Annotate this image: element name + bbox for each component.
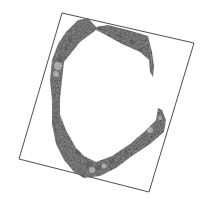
specimen-figure (0, 0, 207, 201)
c-shaped-specimen (40, 10, 180, 190)
image-canvas (0, 0, 207, 201)
